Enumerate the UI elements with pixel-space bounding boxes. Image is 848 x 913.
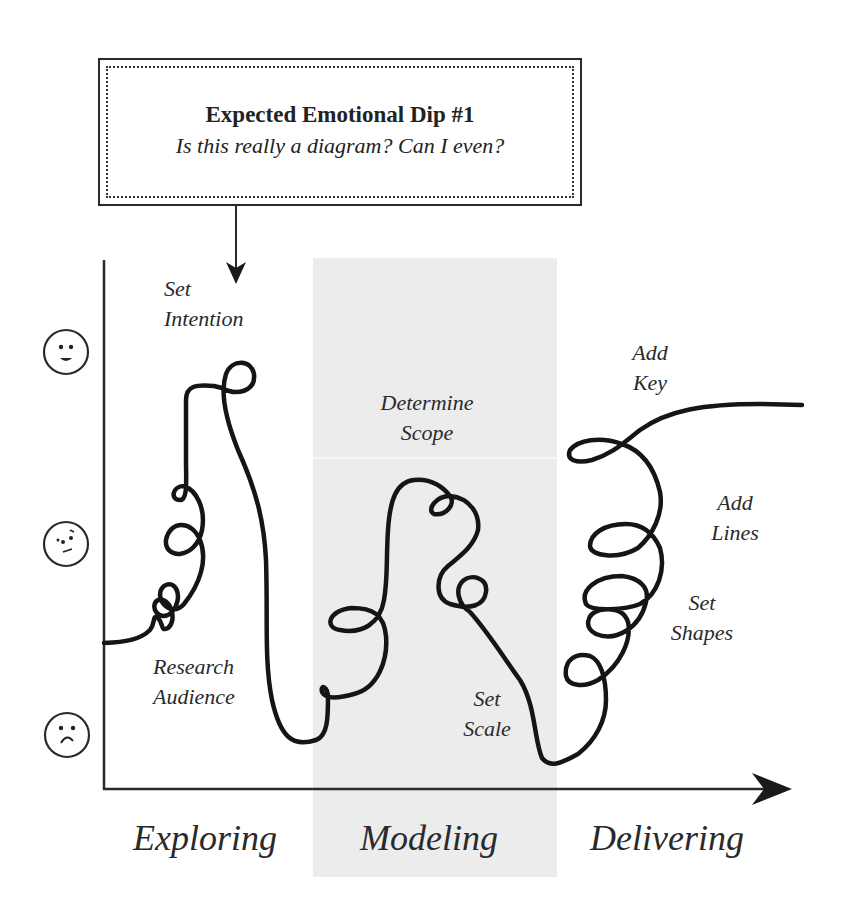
label-set-shapes: Set Shapes	[662, 588, 742, 648]
label-line: Key	[620, 368, 680, 398]
label-determine-scope: Determine Scope	[362, 388, 492, 448]
x-axis	[103, 773, 792, 805]
label-add-lines: Add Lines	[700, 488, 770, 548]
sad-face-icon	[45, 713, 89, 757]
label-line: Set	[452, 684, 522, 714]
label-line: Add	[700, 488, 770, 518]
diagram-canvas	[0, 0, 848, 913]
label-line: Add	[620, 338, 680, 368]
label-research-audience: Research Audience	[153, 652, 235, 712]
callout-pointer-arrow	[226, 206, 246, 284]
label-set-scale: Set Scale	[452, 684, 522, 744]
label-set-intention: Set Intention	[164, 274, 243, 334]
label-line: Research	[153, 652, 235, 682]
phase-delivering: Delivering	[590, 817, 744, 859]
unsure-face-icon	[44, 522, 88, 566]
label-line: Intention	[164, 304, 243, 334]
phase-modeling: Modeling	[360, 817, 498, 859]
label-line: Determine	[362, 388, 492, 418]
label-add-key: Add Key	[620, 338, 680, 398]
label-line: Lines	[700, 518, 770, 548]
label-line: Scope	[362, 418, 492, 448]
happy-face-icon	[44, 330, 88, 374]
label-line: Scale	[452, 714, 522, 744]
label-line: Shapes	[662, 618, 742, 648]
label-line: Audience	[153, 682, 235, 712]
label-line: Set	[662, 588, 742, 618]
phase-exploring: Exploring	[133, 817, 277, 859]
label-line: Set	[164, 274, 243, 304]
